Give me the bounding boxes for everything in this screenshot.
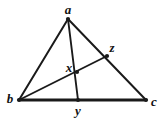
vertex-label-c: c — [151, 95, 157, 108]
segments-group — [19, 19, 146, 100]
vertex-label-y: y — [75, 104, 81, 117]
vertex-marker-c — [144, 98, 148, 102]
vertex-markers-group — [17, 17, 148, 102]
vertex-label-x: x — [66, 61, 73, 74]
vertex-label-z: z — [109, 41, 114, 54]
vertex-label-a: a — [65, 3, 72, 16]
vertex-label-b: b — [7, 92, 14, 105]
vertex-marker-z — [105, 54, 109, 58]
vertex-marker-x — [75, 70, 79, 74]
vertex-marker-b — [17, 98, 21, 102]
vertex-marker-a — [66, 17, 70, 21]
geometry-figure: abczxy — [0, 0, 162, 119]
side-ac — [68, 19, 146, 100]
vertex-marker-y — [76, 98, 80, 102]
geometry-canvas — [0, 0, 162, 119]
